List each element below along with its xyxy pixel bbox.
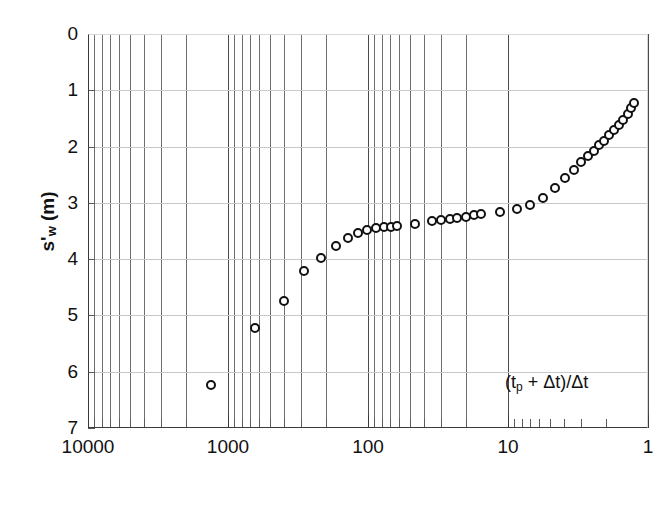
x-gridline: [326, 34, 327, 428]
x-gridline: [466, 34, 467, 428]
x-axis-tick: [466, 419, 467, 428]
x-gridline: [410, 34, 411, 428]
x-axis-tick-label: 10: [497, 437, 518, 456]
x-gridline: [186, 34, 187, 428]
x-axis-tick: [424, 419, 425, 428]
y-gridline: [88, 147, 648, 148]
x-gridline: [242, 34, 243, 428]
x-gridline: [130, 34, 131, 428]
data-point: [629, 98, 639, 108]
y-axis-tick: [88, 147, 95, 148]
y-axis-tick: [88, 428, 95, 429]
x-axis-tick: [368, 415, 369, 428]
y-axis-tick-label: 7: [52, 418, 78, 437]
x-axis-tick: [88, 415, 89, 428]
x-gridline: [508, 34, 509, 428]
x-axis-tick: [522, 419, 523, 428]
annotation-subscript: p: [516, 380, 523, 394]
y-gridline: [88, 90, 648, 91]
x-axis-tick: [250, 419, 251, 428]
data-point: [538, 193, 548, 203]
x-axis-tick: [161, 419, 162, 428]
x-gridline: [424, 34, 425, 428]
data-point: [525, 200, 535, 210]
data-point: [495, 207, 505, 217]
y-axis-tick-label: 5: [52, 305, 78, 324]
y-gridline: [88, 203, 648, 204]
x-gridline: [88, 34, 89, 428]
x-axis-tick: [399, 419, 400, 428]
x-axis-tick: [119, 419, 120, 428]
annotation-prefix: (t: [505, 372, 516, 392]
data-point: [331, 241, 341, 251]
y-axis-tick: [88, 90, 95, 91]
x-axis-tick: [186, 419, 187, 428]
x-gridline: [301, 34, 302, 428]
x-axis-tick: [234, 419, 235, 428]
x-axis-tick: [539, 419, 540, 428]
x-gridline: [161, 34, 162, 428]
data-point: [550, 183, 560, 193]
y-axis-tick-label: 4: [52, 249, 78, 268]
plot-area: [88, 34, 648, 428]
x-axis-tick: [441, 419, 442, 428]
x-gridline: [399, 34, 400, 428]
x-axis-annotation: (tp + Δt)/Δt: [505, 372, 588, 394]
x-gridline: [228, 34, 229, 428]
x-axis-tick: [648, 415, 649, 428]
x-gridline: [94, 34, 95, 428]
x-axis-tick: [270, 419, 271, 428]
x-axis-tick: [301, 419, 302, 428]
x-gridline: [110, 34, 111, 428]
x-gridline: [119, 34, 120, 428]
y-axis-tick: [88, 372, 95, 373]
x-gridline: [102, 34, 103, 428]
annotation-suffix: + Δt)/Δt: [523, 372, 589, 392]
y-axis-tick-label: 1: [52, 80, 78, 99]
data-point: [410, 219, 420, 229]
x-axis-tick: [550, 419, 551, 428]
data-point: [569, 165, 579, 175]
y-axis-tick-label: 2: [52, 137, 78, 156]
x-axis-tick: [581, 419, 582, 428]
y-axis-tick-label: 3: [52, 193, 78, 212]
x-axis-tick: [382, 419, 383, 428]
y-gridline: [88, 259, 648, 260]
x-axis-tick: [390, 419, 391, 428]
data-point: [560, 173, 570, 183]
x-axis-tick: [284, 419, 285, 428]
data-point: [206, 380, 216, 390]
y-axis-tick: [88, 315, 95, 316]
y-axis-tick-label: 6: [52, 362, 78, 381]
chart-figure: s'w (m) 01234567 (tp + Δt)/Δt 1000010001…: [0, 0, 671, 519]
x-gridline: [250, 34, 251, 428]
x-axis-tick: [374, 419, 375, 428]
data-point: [299, 266, 309, 276]
x-axis-tick-labels: 100001000100101: [88, 437, 648, 461]
x-axis-tick: [242, 419, 243, 428]
x-axis-tick: [410, 419, 411, 428]
x-gridline: [648, 34, 649, 428]
y-axis-tick-labels: 01234567: [52, 34, 78, 428]
x-axis-tick: [530, 419, 531, 428]
y-gridline: [88, 315, 648, 316]
x-axis-tick-label: 1: [643, 437, 654, 456]
x-axis-tick-label: 10000: [62, 437, 115, 456]
data-point: [279, 296, 289, 306]
x-gridline: [441, 34, 442, 428]
x-gridline: [259, 34, 260, 428]
x-axis-tick: [514, 419, 515, 428]
x-axis-tick-label: 100: [352, 437, 384, 456]
x-gridline: [270, 34, 271, 428]
x-axis-tick: [110, 419, 111, 428]
x-axis-tick: [326, 419, 327, 428]
data-point: [512, 204, 522, 214]
data-point: [250, 323, 260, 333]
x-axis-tick: [228, 415, 229, 428]
x-axis-tick: [564, 419, 565, 428]
x-axis-tick: [508, 415, 509, 428]
y-axis-tick-label: 0: [52, 24, 78, 43]
x-axis-tick: [94, 419, 95, 428]
y-axis-tick: [88, 259, 95, 260]
x-axis-tick: [606, 419, 607, 428]
